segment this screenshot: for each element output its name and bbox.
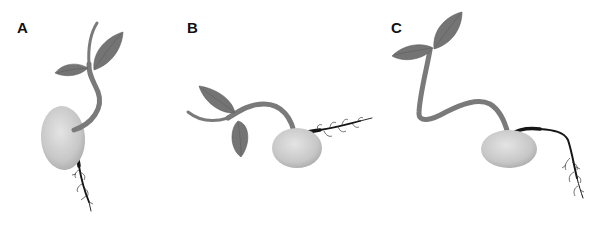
seedling-figure: A B bbox=[0, 0, 603, 227]
panel-label-c: C bbox=[391, 19, 402, 36]
seed-c bbox=[481, 130, 537, 168]
panel-a: A bbox=[17, 19, 123, 211]
seed-b bbox=[272, 128, 322, 168]
leaf-c-right bbox=[434, 12, 462, 49]
panel-b: B bbox=[187, 19, 372, 168]
stem-tip-b bbox=[188, 112, 228, 120]
panel-label-a: A bbox=[17, 19, 28, 36]
leaf-b-lower bbox=[232, 121, 248, 157]
panel-c: C bbox=[391, 12, 584, 198]
stem-c bbox=[419, 50, 508, 134]
leaf-a-right bbox=[94, 32, 123, 70]
leaf-a-left bbox=[55, 64, 88, 76]
leaf-b-upper bbox=[199, 86, 235, 113]
panel-label-b: B bbox=[187, 19, 198, 36]
